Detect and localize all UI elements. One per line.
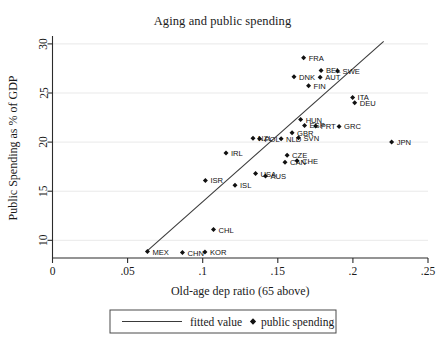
data-point-label: KOR (210, 248, 227, 257)
data-point-label: ISR (210, 176, 223, 185)
y-tick-label: 20 (38, 136, 50, 148)
data-point-label: PRT (321, 122, 336, 131)
data-point-marker (232, 183, 237, 188)
data-point-marker (298, 117, 303, 122)
data-point-marker (285, 153, 290, 158)
data-point-label: AUS (270, 172, 286, 181)
data-point-marker (319, 68, 324, 73)
data-point-marker (223, 150, 228, 155)
data-point-label: POL (264, 135, 279, 144)
data-point-marker (203, 178, 208, 183)
data-point-label: IRL (231, 149, 243, 158)
data-point-marker (251, 136, 256, 141)
y-axis-label: Public Spending as % of GDP (6, 75, 20, 220)
x-tick-label: 0 (50, 265, 56, 277)
y-tick-label: 15 (38, 185, 50, 197)
data-point-label: FIN (314, 82, 326, 91)
scatter-plot: 0.05.1.15.2.25 1015202530 FRABELSWEDNKAU… (0, 0, 445, 342)
data-point-label: GRC (344, 122, 361, 131)
data-point-marker (180, 250, 185, 255)
x-tick-label: .15 (271, 265, 286, 277)
data-point-marker (283, 160, 288, 165)
data-point-marker (211, 227, 216, 232)
data-point-label: NLD (286, 135, 302, 144)
x-tick-label: .1 (198, 265, 207, 277)
y-tick-label: 30 (38, 38, 50, 50)
x-tick-label: .05 (120, 265, 135, 277)
data-point-label: SWE (343, 67, 360, 76)
x-tick-label: .2 (349, 265, 358, 277)
chart-legend: fitted value public spending (110, 310, 336, 333)
data-point-label: CHL (219, 226, 234, 235)
y-tick-label: 25 (38, 87, 50, 99)
data-point-marker (352, 100, 357, 105)
data-point-marker (350, 95, 355, 100)
data-point-label: AUT (325, 73, 341, 82)
data-point-label: ISL (240, 181, 251, 190)
data-point-label: FRA (309, 54, 325, 63)
x-axis-label: Old-age dep ratio (65 above) (171, 284, 310, 298)
data-point-label: CAN (290, 158, 306, 167)
y-tick-label: 10 (38, 234, 50, 246)
chart-root: Aging and public spending 0.05.1.15.2.25… (0, 0, 445, 342)
data-point-label: DNK (299, 73, 315, 82)
legend-item-public-spending: public spending (261, 316, 334, 329)
data-point-marker (389, 140, 394, 145)
data-point-label: JPN (397, 138, 411, 147)
data-point-marker (253, 171, 258, 176)
data-point-label: MEX (152, 248, 168, 257)
x-axis-ticks: 0.05.1.15.2.25 (50, 258, 436, 277)
axis-spines (53, 36, 429, 258)
data-point-label: CHN (187, 249, 203, 258)
data-point-label: DEU (360, 99, 376, 108)
data-point-marker (318, 75, 323, 80)
data-point-marker (292, 74, 297, 79)
x-tick-label: .25 (421, 265, 436, 277)
y-axis-ticks: 1015202530 (38, 38, 53, 246)
data-point-marker (306, 83, 311, 88)
gridlines (53, 44, 429, 240)
legend-item-fitted-value: fitted value (190, 316, 242, 328)
data-point-marker (337, 124, 342, 129)
data-points: FRABELSWEDNKAUTFINITADEUHUNESPPRTGRCGBRS… (145, 54, 411, 258)
data-point-marker (301, 55, 306, 60)
data-point-label: SVN (304, 134, 320, 143)
